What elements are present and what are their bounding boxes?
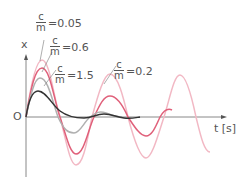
fraction-denominator: m (55, 75, 65, 85)
label-cm-1.5-value: =1.5 (67, 69, 94, 82)
x-axis-label: x (21, 38, 28, 51)
label-cm-0.6-value: =0.6 (62, 41, 89, 54)
label-cm-0.6-fraction: c m (50, 36, 60, 57)
label-cm-0.05-value: =0.05 (48, 17, 82, 30)
x-axis-arrow-icon (24, 54, 28, 60)
fraction-denominator: m (36, 23, 46, 33)
label-cm-0.2-value: =0.2 (126, 65, 153, 78)
label-cm-0.05-fraction: c m (36, 12, 46, 33)
label-cm-0.2-fraction: c m (114, 60, 124, 81)
fraction-denominator: m (114, 71, 124, 81)
leader-cm-0.05 (40, 40, 44, 61)
label-cm-1.5-fraction: c m (55, 64, 65, 85)
t-axis-arrow-icon (221, 115, 227, 119)
origin-label: O (13, 110, 22, 123)
fraction-denominator: m (50, 47, 60, 57)
t-axis-label: t [s] (214, 122, 236, 135)
curve-cm-0.6 (26, 78, 122, 133)
